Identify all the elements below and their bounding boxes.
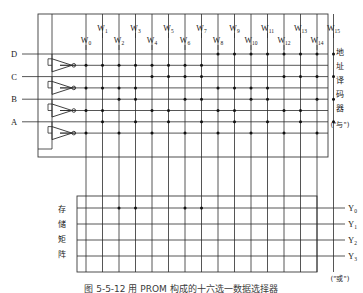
decoder-label-char-3: 码 [336,90,344,99]
output-label-3: Y3 [348,251,357,262]
decoder-label-char-2: 译 [336,76,344,85]
storage-label-char-1: 储 [58,219,66,229]
input-label-A: A [11,117,18,127]
word-line-label-4: W4 [147,36,158,46]
output-label-2: Y2 [348,235,357,246]
output-label-0: Y0 [348,203,357,214]
storage-label-char-3: 阵 [58,249,66,259]
word-line-label-8: W8 [213,36,224,46]
word-line-label-1: W1 [97,24,108,34]
word-line-label-2: W2 [114,36,125,46]
decoder-label-char-1: 址 [336,61,344,71]
word-line-label-14: W14 [310,36,323,46]
word-line-label-13: W13 [294,24,307,34]
figure-caption: 图 5-5-12 用 PROM 构成的十六选一数据选择器 [84,283,277,293]
input-label-C: C [11,72,17,82]
input-label-D: D [11,49,17,59]
word-line-label-6: W6 [180,36,191,46]
schematic-labels: W0W1W2W3W4W5W6W7W8W9W10W11W12W13W14W15DC… [0,0,363,293]
word-line-label-7: W7 [196,24,207,34]
word-line-label-5: W5 [163,24,174,34]
decoder-gate-note: ("与") [331,121,350,129]
word-line-label-9: W9 [229,24,240,34]
storage-label-char-0: 存 [58,204,66,214]
word-line-label-15: W15 [327,24,340,34]
word-line-label-3: W3 [130,24,141,34]
storage-label-char-2: 矩 [58,234,66,244]
decoder-label-char-0: 地 [336,47,344,57]
word-line-label-0: W0 [81,36,92,46]
word-line-label-10: W10 [244,36,257,46]
storage-gate-note: ("或") [331,274,350,283]
decoder-label-char-4: 器 [336,104,344,113]
output-label-1: Y1 [348,219,357,230]
word-line-label-12: W12 [277,36,290,46]
word-line-label-11: W11 [261,24,274,34]
figure-root: W0W1W2W3W4W5W6W7W8W9W10W11W12W13W14W15DC… [0,0,363,293]
input-label-B: B [11,94,17,104]
